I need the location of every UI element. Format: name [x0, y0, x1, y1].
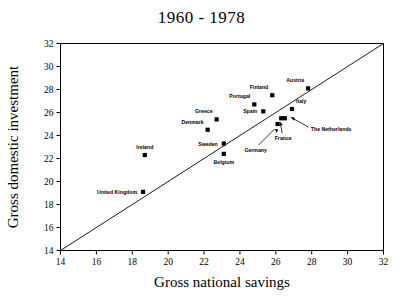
scatter-plot: 1416182022242628303214161820222426283032…	[0, 0, 403, 302]
identity-reference-line	[61, 44, 384, 251]
data-point-label: Greece	[195, 108, 213, 114]
data-point-label: Ireland	[136, 144, 153, 150]
x-tick-label: 22	[199, 257, 209, 267]
x-tick-label: 30	[343, 257, 353, 267]
x-tick-label: 16	[92, 257, 102, 267]
data-point-label: Denmark	[181, 119, 203, 125]
data-point-marker	[290, 107, 294, 111]
data-point-marker	[261, 109, 265, 113]
data-point-marker	[283, 116, 287, 120]
y-tick-label: 16	[44, 223, 54, 233]
data-point-label: Germany	[244, 147, 267, 153]
data-point-marker	[279, 116, 283, 120]
x-tick-label: 24	[235, 257, 245, 267]
data-point-marker	[222, 141, 226, 145]
y-tick-label: 20	[44, 177, 54, 187]
data-point-label: Italy	[296, 98, 306, 104]
data-point-marker	[206, 128, 210, 132]
data-point-marker	[215, 117, 219, 121]
y-tick-label: 14	[44, 246, 54, 256]
x-tick-label: 20	[163, 257, 173, 267]
leader-arrowhead	[291, 117, 295, 121]
data-point-marker	[141, 190, 145, 194]
data-point-marker	[276, 122, 280, 126]
data-point-label: Portugal	[229, 93, 251, 99]
x-axis-title: Gross national savings	[154, 274, 290, 290]
data-point-label: Sweden	[198, 141, 218, 147]
y-tick-label: 18	[44, 200, 54, 210]
data-point-label: France	[275, 135, 292, 141]
y-tick-label: 24	[44, 131, 54, 141]
y-tick-label: 30	[44, 62, 54, 72]
data-point-marker	[306, 86, 310, 90]
y-tick-label: 32	[44, 39, 54, 49]
data-point-label: Belgium	[214, 159, 235, 165]
leader-arrowhead	[275, 129, 279, 133]
data-point-label: Finland	[250, 84, 268, 90]
data-point-label: The Netherlands	[311, 126, 352, 132]
x-tick-label: 28	[307, 257, 317, 267]
y-tick-label: 22	[44, 154, 54, 164]
data-point-marker	[222, 152, 226, 156]
data-point-marker	[270, 93, 274, 97]
leader-line	[259, 129, 275, 145]
data-point-label: United Kingdom	[97, 189, 137, 195]
x-tick-label: 32	[379, 257, 389, 267]
data-point-marker	[252, 102, 256, 106]
data-point-label: Spain	[243, 108, 257, 114]
x-tick-label: 14	[56, 257, 66, 267]
y-axis-title: Gross domestic investment	[5, 65, 21, 228]
y-tick-label: 28	[44, 85, 54, 95]
y-tick-label: 26	[44, 108, 54, 118]
data-point-marker	[143, 153, 147, 157]
chart-page: 1960 - 1978 1416182022242628303214161820…	[0, 0, 403, 302]
x-tick-label: 18	[128, 257, 138, 267]
x-tick-label: 26	[271, 257, 281, 267]
data-point-label: Austria	[286, 77, 304, 83]
